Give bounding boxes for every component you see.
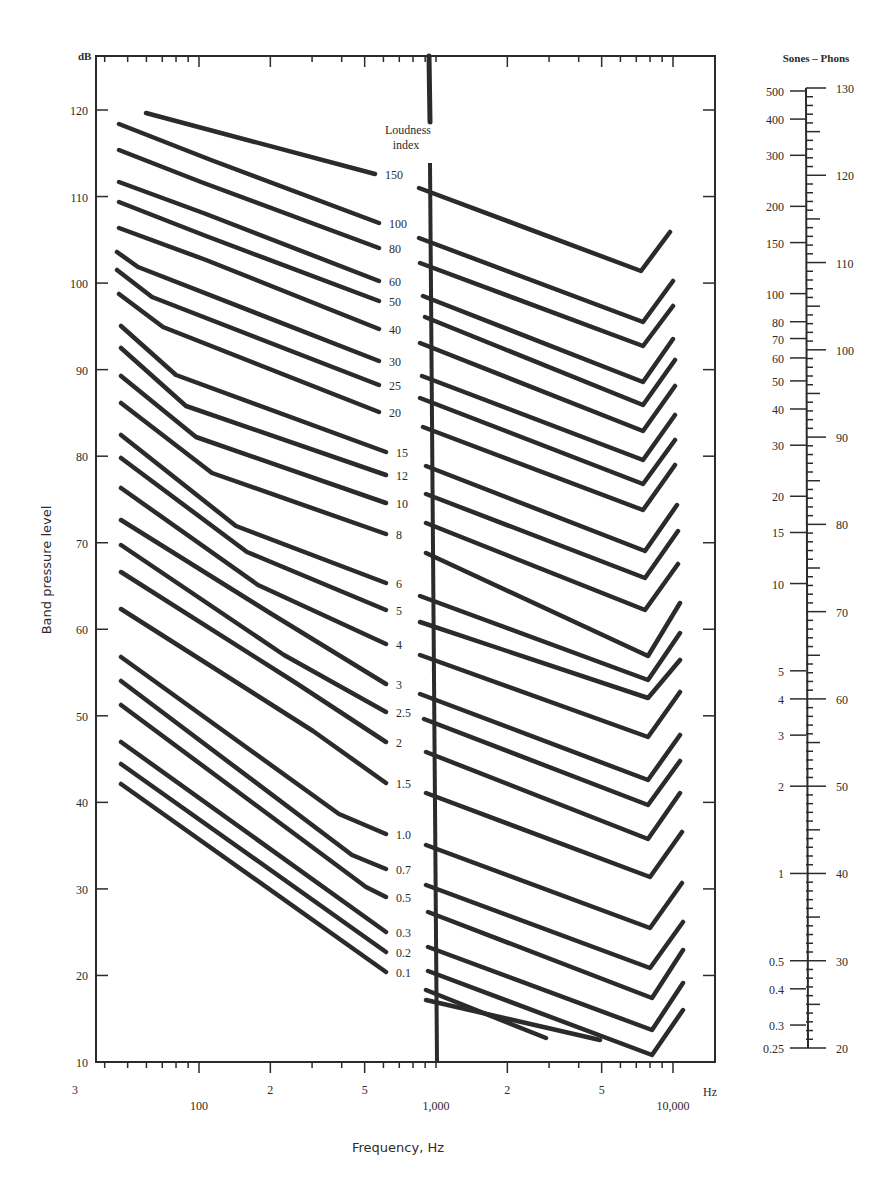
loudness-index-label: 6: [396, 577, 402, 591]
loudness-contour-right: [420, 343, 675, 431]
y-tick-label: 70: [76, 537, 88, 551]
sones-phons-scale: 1301201101009080706050403020500400300200…: [763, 82, 854, 1056]
loudness-index-label: 2: [396, 736, 402, 750]
loudness-index-label: 2.5: [396, 706, 411, 720]
sones-label: 60: [772, 352, 784, 366]
sones-label: 2: [778, 780, 784, 794]
y-tick-label: 80: [76, 450, 88, 464]
sones-label: 70: [772, 333, 784, 347]
sones-label: 100: [766, 288, 784, 302]
phons-label: 80: [836, 518, 848, 532]
loudness-index-label: 15: [396, 446, 408, 460]
loudness-contour-left: [121, 572, 386, 742]
loudness-index-label: 0.1: [396, 966, 411, 980]
sones-label: 400: [766, 113, 784, 127]
x-tick-label: 10,000: [657, 1099, 690, 1113]
loudness-index-label: 1.0: [396, 828, 411, 842]
sones-label: 0.4: [769, 983, 784, 997]
loudness-contour-right: [426, 845, 682, 928]
y-tick-label: 120: [70, 104, 88, 118]
loudness-index-label: 25: [389, 379, 401, 393]
phons-label: 120: [836, 169, 854, 183]
x-axis-ticks: 3100251,0002510,000: [72, 56, 689, 1113]
phons-label: 130: [836, 82, 854, 96]
x-tick-label: 2: [504, 1083, 510, 1097]
y-tick-label: 40: [76, 796, 88, 810]
phons-label: 110: [836, 257, 854, 271]
loudness-contour-right: [426, 1000, 600, 1040]
x-tick-label: 2: [267, 1083, 273, 1097]
x-tick-label: 1,000: [423, 1099, 450, 1113]
y-tick-label: 20: [76, 969, 88, 983]
loudness-contour-right: [420, 622, 680, 698]
loudness-contour-left: [119, 202, 379, 301]
loudness-contour-left: [121, 681, 386, 869]
sones-label: 1: [778, 867, 784, 881]
phons-label: 90: [836, 431, 848, 445]
loudness-contour-right: [428, 971, 683, 1055]
loudness-index-label: 50: [389, 295, 401, 309]
loudness-index-title-2: index: [393, 138, 420, 152]
phons-label: 20: [836, 1042, 848, 1056]
sones-label: 0.5: [769, 955, 784, 969]
y-axis-title: Band pressure level: [39, 506, 54, 635]
loudness-contour-right: [426, 523, 678, 610]
loudness-index-labels: 15010080605040302520151210865432.521.51.…: [385, 168, 411, 980]
sones-label: 10: [772, 578, 784, 592]
y-tick-label: 90: [76, 364, 88, 378]
x-tick-label: 3: [72, 1083, 78, 1097]
sones-label: 150: [766, 237, 784, 251]
loudness-index-label: 5: [396, 604, 402, 618]
hz-unit-label: Hz: [703, 1085, 717, 1099]
phons-label: 50: [836, 780, 848, 794]
loudness-index-label: 60: [389, 275, 401, 289]
loudness-contour-right: [420, 263, 673, 346]
x-tick-label: 5: [362, 1083, 368, 1097]
loudness-index-label: 3: [396, 678, 402, 692]
loudness-contour-left: [121, 520, 386, 684]
loudness-index-label: 12: [396, 469, 408, 483]
x-axis-title: Frequency, Hz: [352, 1140, 444, 1155]
loudness-contour-right: [419, 188, 670, 271]
y-tick-label: 60: [76, 623, 88, 637]
loudness-chart: 102030405060708090100110120 3100251,0002…: [0, 0, 895, 1182]
sones-phons-title: Sones – Phons: [783, 52, 850, 64]
sones-label: 80: [772, 316, 784, 330]
y-tick-label: 110: [70, 191, 88, 205]
y-tick-label: 50: [76, 710, 88, 724]
loudness-index-label: 30: [389, 355, 401, 369]
loudness-index-label: 100: [389, 217, 407, 231]
loudness-contour-left: [117, 252, 379, 361]
sones-label: 40: [772, 403, 784, 417]
loudness-index-label: 20: [389, 406, 401, 420]
loudness-contour-left: [121, 764, 386, 952]
y-tick-label: 100: [70, 277, 88, 291]
loudness-contour-right: [424, 719, 680, 805]
loudness-contour-left: [119, 228, 379, 329]
phons-label: 40: [836, 867, 848, 881]
phons-label: 70: [836, 606, 848, 620]
loudness-contour-right: [426, 752, 680, 839]
loudness-contour-left: [121, 657, 386, 834]
sones-label: 200: [766, 200, 784, 214]
sones-label: 5: [778, 665, 784, 679]
loudness-contour-left: [121, 784, 386, 972]
loudness-index-label: 40: [389, 323, 401, 337]
loudness-index-label: 150: [385, 168, 403, 182]
phons-label: 30: [836, 955, 848, 969]
phons-label: 60: [836, 693, 848, 707]
loudness-contour-right: [423, 427, 675, 510]
loudness-contour-left: [121, 705, 386, 897]
sones-label: 30: [772, 439, 784, 453]
x-tick-label: 5: [599, 1083, 605, 1097]
loudness-index-label: 0.2: [396, 946, 411, 960]
sones-label: 0.25: [763, 1042, 784, 1056]
loudness-index-label: 10: [396, 497, 408, 511]
y-tick-label: 10: [76, 1056, 88, 1070]
sones-label: 300: [766, 149, 784, 163]
loudness-index-title: Loudness: [385, 123, 431, 137]
loudness-index-label: 0.3: [396, 926, 411, 940]
loudness-index-label: 1.5: [396, 777, 411, 791]
loudness-contour-left: [146, 113, 375, 174]
loudness-index-label: 0.5: [396, 891, 411, 905]
